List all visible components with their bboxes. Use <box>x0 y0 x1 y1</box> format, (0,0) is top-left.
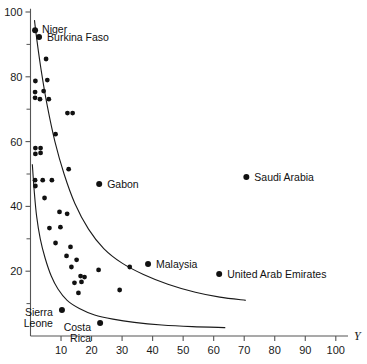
y-tick-label: 80 <box>10 71 22 83</box>
scatter-plot: 20406080100102030405060708090100YNigerBu… <box>0 0 367 364</box>
data-point <box>49 178 54 183</box>
data-point <box>79 279 84 284</box>
data-point-niger <box>32 27 38 33</box>
data-point-united-arab-emirates <box>216 271 222 277</box>
data-point <box>41 89 46 94</box>
data-point <box>40 178 45 183</box>
data-point <box>33 79 38 84</box>
data-point <box>33 178 38 183</box>
data-point <box>53 241 58 246</box>
data-point <box>69 265 74 270</box>
data-point-costa-rica <box>97 320 103 326</box>
x-tick-label: 50 <box>177 344 189 356</box>
data-point <box>57 210 62 215</box>
data-point <box>127 265 132 270</box>
data-point <box>82 275 87 280</box>
data-point <box>64 254 69 259</box>
y-tick-label: 60 <box>10 136 22 148</box>
point-label-united-arab-emirates: United Arab Emirates <box>227 268 326 280</box>
x-tick-label: 40 <box>146 344 158 356</box>
data-point-sierra-leone <box>59 307 65 313</box>
data-point <box>42 196 47 201</box>
y-tick-label: 100 <box>4 6 22 18</box>
point-label-burkina-faso: Burkina Faso <box>47 31 109 43</box>
data-point <box>33 146 38 151</box>
data-point <box>45 78 50 83</box>
point-label-costa-rica: Rica <box>70 332 91 344</box>
data-point <box>65 111 70 116</box>
y-tick-label: 20 <box>10 265 22 277</box>
chart-canvas: 20406080100102030405060708090100YNigerBu… <box>0 0 367 364</box>
data-point-malaysia <box>145 261 151 267</box>
x-tick-label: 70 <box>238 344 250 356</box>
x-tick-label: 20 <box>85 344 97 356</box>
data-point <box>38 97 43 102</box>
data-point <box>46 97 51 102</box>
data-point <box>117 288 122 293</box>
data-point <box>33 95 38 100</box>
data-point <box>68 245 73 250</box>
x-tick-label: 100 <box>327 344 345 356</box>
x-tick-label: 30 <box>116 344 128 356</box>
point-label-malaysia: Malaysia <box>156 258 198 270</box>
data-point <box>33 152 38 157</box>
data-point <box>65 211 70 216</box>
x-tick-label: 60 <box>208 344 220 356</box>
x-tick-label: 90 <box>299 344 311 356</box>
data-point <box>38 151 43 156</box>
data-point <box>76 291 81 296</box>
point-label-gabon: Gabon <box>107 178 139 190</box>
point-label-sierra-leone: Leone <box>24 317 53 329</box>
data-point-saudi-arabia <box>243 174 249 180</box>
data-point <box>72 280 77 285</box>
x-tick-label: 10 <box>55 344 67 356</box>
data-point <box>44 57 49 62</box>
data-point <box>33 90 38 95</box>
x-tick-label: 80 <box>269 344 281 356</box>
data-point <box>66 167 71 172</box>
data-point <box>38 146 43 151</box>
data-point-gabon <box>96 181 102 187</box>
point-label-saudi-arabia: Saudi Arabia <box>254 171 314 183</box>
data-point <box>96 268 101 273</box>
data-point <box>58 225 63 230</box>
data-point <box>47 226 52 231</box>
data-point <box>33 184 38 189</box>
x-axis-title: Y <box>354 329 362 343</box>
y-tick-label: 40 <box>10 200 22 212</box>
data-point <box>53 132 58 137</box>
data-point <box>70 111 75 116</box>
data-point <box>74 257 79 262</box>
